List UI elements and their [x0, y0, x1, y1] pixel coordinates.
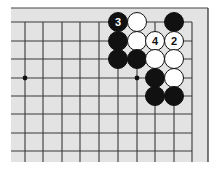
move-number-label: 4 [152, 35, 159, 47]
white-stone-disc [165, 69, 184, 88]
black-stone-disc [146, 69, 165, 88]
black-stone-disc [146, 87, 165, 106]
black-stone [165, 87, 184, 106]
white-stone-disc [128, 13, 147, 32]
black-stone [146, 69, 165, 88]
black-stone [128, 50, 147, 69]
white-stone: 4 [146, 32, 165, 51]
white-stone-disc [165, 50, 184, 69]
white-stone [146, 50, 165, 69]
black-stone [165, 13, 184, 32]
star-point [135, 76, 140, 81]
black-stone [109, 32, 128, 51]
black-stone [146, 87, 165, 106]
white-stone-disc [146, 50, 165, 69]
white-stone [165, 50, 184, 69]
go-board-diagram: 342 [0, 0, 216, 172]
black-stone-disc [128, 50, 147, 69]
black-stone-disc [109, 50, 128, 69]
move-number-label: 3 [115, 16, 121, 28]
white-stone-disc [128, 32, 147, 51]
star-point [23, 76, 28, 81]
white-stone [128, 32, 147, 51]
black-stone: 3 [109, 13, 128, 32]
white-stone [165, 69, 184, 88]
move-number-label: 2 [171, 35, 177, 47]
black-stone-disc [109, 32, 128, 51]
black-stone-disc [165, 13, 184, 32]
white-stone: 2 [165, 32, 184, 51]
black-stone [109, 50, 128, 69]
black-stone-disc [165, 87, 184, 106]
white-stone [128, 13, 147, 32]
